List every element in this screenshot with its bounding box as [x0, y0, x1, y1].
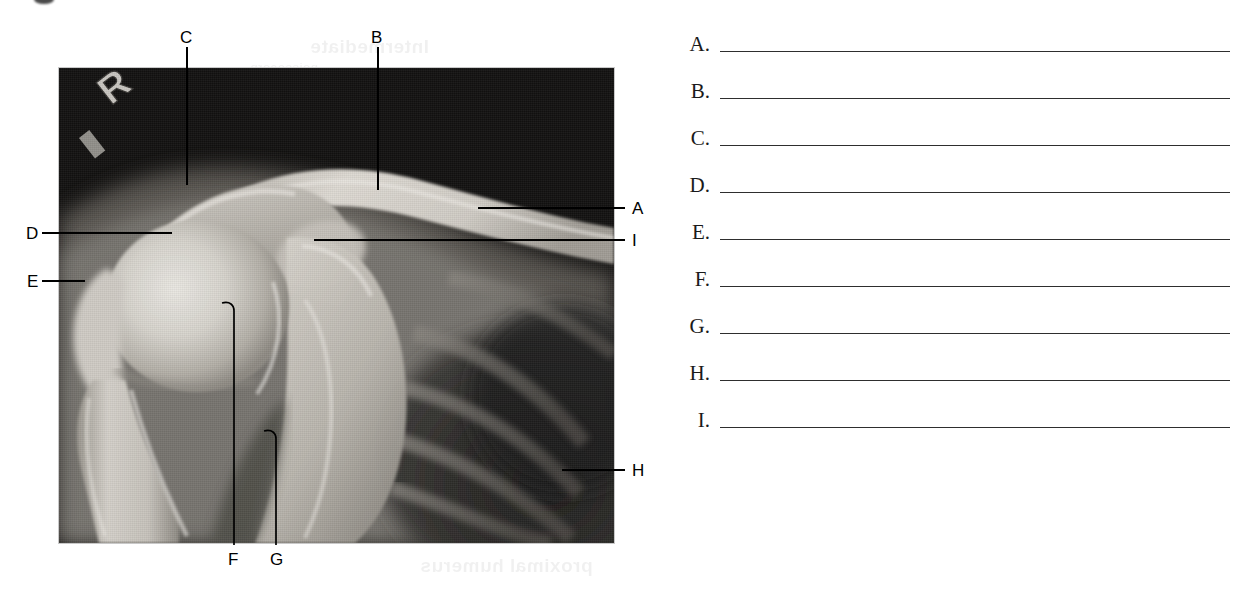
figure-label-e: E [27, 273, 38, 290]
leader-lines-f-g [200, 295, 310, 550]
leader-line-h [562, 469, 625, 471]
answer-letter-h: H. [676, 363, 710, 384]
leader-line-e [42, 280, 85, 282]
answer-row-f: F. [676, 257, 1231, 287]
answer-row-i: I. [676, 398, 1231, 428]
answer-letter-g: G. [676, 316, 710, 337]
answer-blank-h[interactable] [720, 380, 1230, 381]
answer-blank-e[interactable] [720, 239, 1230, 240]
figure-label-i: I [632, 232, 637, 249]
answer-blank-c[interactable] [720, 145, 1230, 146]
leader-line-b [377, 47, 379, 190]
figure-label-d: D [26, 225, 38, 242]
answer-row-a: A. [676, 22, 1231, 52]
figure-label-f: F [228, 551, 238, 568]
answer-letter-a: A. [676, 34, 710, 55]
figure-label-h: H [632, 462, 644, 479]
figure-label-c: C [180, 29, 192, 46]
leader-line-g [264, 430, 276, 545]
figure-label-g: G [270, 551, 283, 568]
leader-line-c [186, 47, 188, 185]
answer-row-e: E. [676, 210, 1231, 240]
leader-line-a [478, 207, 625, 209]
answer-blank-f[interactable] [720, 286, 1230, 287]
answer-letter-i: I. [676, 410, 710, 431]
answer-key-list: A. B. C. D. E. F. G. H. [676, 22, 1233, 472]
answer-row-g: G. [676, 304, 1231, 334]
figure-label-a: A [632, 200, 643, 217]
leader-line-i [314, 239, 625, 241]
answer-letter-e: E. [676, 222, 710, 243]
scan-artifact [34, 0, 54, 4]
figure-label-b: B [371, 29, 382, 46]
radiograph-render: R [59, 68, 614, 543]
shoulder-radiograph: R [59, 68, 614, 543]
answer-blank-d[interactable] [720, 192, 1230, 193]
bleed-through-footer: proximal humerus [420, 555, 593, 577]
answer-row-h: H. [676, 351, 1231, 381]
worksheet-page: Intermediate noissecorp proximal humerus [0, 0, 1233, 606]
answer-row-c: C. [676, 116, 1231, 146]
answer-letter-f: F. [676, 269, 710, 290]
answer-blank-i[interactable] [720, 427, 1230, 428]
answer-blank-g[interactable] [720, 333, 1230, 334]
bleed-through-heading: Intermediate [310, 36, 429, 58]
answer-blank-b[interactable] [720, 98, 1230, 99]
answer-row-b: B. [676, 69, 1231, 99]
answer-blank-a[interactable] [720, 51, 1230, 52]
leader-line-f [222, 302, 234, 545]
answer-letter-b: B. [676, 81, 710, 102]
answer-row-d: D. [676, 163, 1231, 193]
answer-letter-d: D. [676, 175, 710, 196]
answer-letter-c: C. [676, 128, 710, 149]
leader-line-d [42, 232, 172, 234]
